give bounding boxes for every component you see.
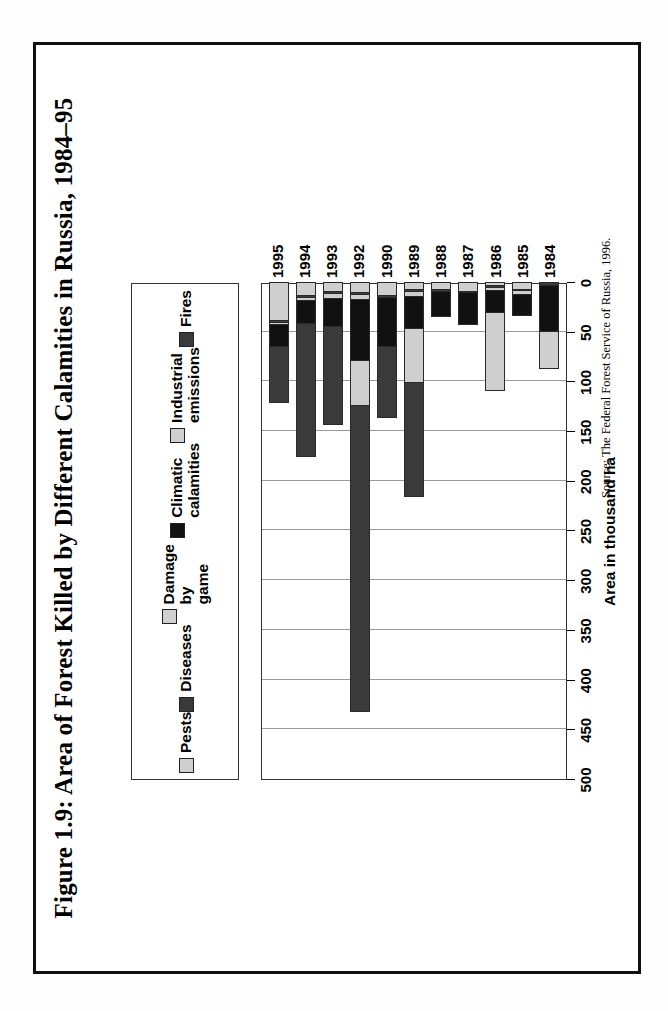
- source-note: Source: The Federal Forest Service of Ru…: [599, 238, 614, 498]
- bar-segment-pests[interactable]: [432, 283, 450, 289]
- bar-segment-fires[interactable]: [324, 326, 342, 424]
- axis-tick: [567, 680, 575, 681]
- stacked-bar[interactable]: [512, 282, 532, 316]
- legend-item-pests[interactable]: Pests: [177, 712, 194, 773]
- stacked-bar[interactable]: [431, 282, 451, 317]
- bar-segment-industrial-emissions[interactable]: [351, 360, 369, 405]
- legend-item-damage-by-game[interactable]: Damage by game: [160, 538, 211, 625]
- axis-tick-label: 150: [577, 420, 594, 445]
- axis-tick-label: 350: [577, 618, 594, 643]
- category-label-1994: 1994: [295, 208, 315, 278]
- bar-segment-fires[interactable]: [297, 323, 315, 456]
- stacked-bar[interactable]: [458, 282, 478, 325]
- legend-item-climatic-calamities[interactable]: Climatic calamities: [168, 443, 202, 538]
- bar-segment-pests[interactable]: [378, 283, 396, 295]
- category-label-1992: 1992: [349, 208, 369, 278]
- bar-segment-damage-by-game[interactable]: [270, 322, 288, 324]
- bar-segment-diseases[interactable]: [378, 295, 396, 297]
- bar-segment-climatic-calamities[interactable]: [351, 299, 369, 360]
- stacked-bar[interactable]: [323, 282, 343, 425]
- bar-segment-pests[interactable]: [486, 283, 504, 285]
- stacked-bar[interactable]: [485, 282, 505, 391]
- axis-tick: [567, 282, 575, 283]
- bar-segment-damage-by-game[interactable]: [405, 291, 423, 296]
- bar-segment-damage-by-game[interactable]: [324, 293, 342, 298]
- bar-segment-industrial-emissions[interactable]: [405, 328, 423, 382]
- category-label-1989: 1989: [404, 208, 424, 278]
- stacked-bar[interactable]: [539, 282, 559, 369]
- category-label-1995: 1995: [268, 208, 288, 278]
- bar-segment-pests[interactable]: [405, 283, 423, 289]
- bar-segment-pests[interactable]: [270, 283, 288, 320]
- category-label-1988: 1988: [431, 208, 451, 278]
- axis-tick: [567, 381, 575, 382]
- legend-item-diseases[interactable]: Diseases: [177, 624, 194, 711]
- category-axis-labels: 1995199419931992199019891988198719861985…: [261, 208, 567, 278]
- bar-segment-climatic-calamities[interactable]: [513, 294, 531, 315]
- bar-segment-climatic-calamities[interactable]: [270, 324, 288, 346]
- bar-row: [485, 284, 505, 779]
- bar-segment-fires[interactable]: [270, 346, 288, 403]
- axis-tick-label: 400: [577, 668, 594, 693]
- bar-segment-pests[interactable]: [513, 283, 531, 289]
- bar-segment-diseases[interactable]: [270, 320, 288, 322]
- bar-segment-climatic-calamities[interactable]: [378, 297, 396, 346]
- bar-segment-industrial-emissions[interactable]: [486, 312, 504, 390]
- bar-segment-pests[interactable]: [459, 283, 477, 291]
- bar-segment-diseases[interactable]: [351, 292, 369, 294]
- bar-row: [512, 284, 532, 779]
- stacked-bar[interactable]: [404, 282, 424, 497]
- bar-segment-diseases[interactable]: [513, 289, 531, 291]
- bar-segment-climatic-calamities[interactable]: [459, 293, 477, 324]
- axis-tick-label: 500: [577, 767, 594, 792]
- bar-segment-diseases[interactable]: [486, 285, 504, 287]
- bar-segment-climatic-calamities[interactable]: [486, 290, 504, 312]
- bar-segment-pests[interactable]: [297, 283, 315, 295]
- figure-frame: Figure 1.9: Area of Forest Killed by Dif…: [33, 42, 641, 974]
- legend-swatch-icon: [170, 523, 185, 538]
- bar-segment-diseases[interactable]: [540, 283, 558, 285]
- legend-label: Diseases: [177, 624, 194, 691]
- legend-item-industrial-emissions[interactable]: Industrial emissions: [168, 347, 202, 443]
- stacked-bar[interactable]: [296, 282, 316, 457]
- bar-segment-fires[interactable]: [405, 382, 423, 495]
- bar-segment-industrial-emissions[interactable]: [540, 331, 558, 369]
- rotated-figure-canvas: Figure 1.9: Area of Forest Killed by Dif…: [39, 48, 635, 968]
- bar-segment-damage-by-game[interactable]: [351, 294, 369, 299]
- bar-row: [296, 284, 316, 779]
- stacked-bar[interactable]: [350, 282, 370, 712]
- bar-segment-damage-by-game[interactable]: [513, 291, 531, 295]
- axis-tick-label: 450: [577, 718, 594, 743]
- bar-segment-climatic-calamities[interactable]: [297, 300, 315, 324]
- bar-segment-damage-by-game[interactable]: [486, 287, 504, 290]
- axis-tick-label: 200: [577, 469, 594, 494]
- stacked-bar[interactable]: [377, 282, 397, 418]
- bar-row: [458, 284, 478, 779]
- bar-segment-pests[interactable]: [351, 283, 369, 292]
- bar-segment-climatic-calamities[interactable]: [324, 298, 342, 326]
- bar-segment-climatic-calamities[interactable]: [405, 296, 423, 329]
- bar-segment-diseases[interactable]: [432, 289, 450, 291]
- legend-swatch-icon: [162, 609, 177, 624]
- legend-label: Damage by game: [160, 538, 211, 605]
- bar-segment-climatic-calamities[interactable]: [432, 291, 450, 316]
- bar-segment-fires[interactable]: [351, 405, 369, 712]
- bar-row: [323, 284, 343, 779]
- legend-item-fires[interactable]: Fires: [177, 290, 194, 347]
- bar-segment-damage-by-game[interactable]: [297, 297, 315, 300]
- axis-tick: [567, 580, 575, 581]
- bar-segment-diseases[interactable]: [324, 291, 342, 293]
- bar-segment-pests[interactable]: [324, 283, 342, 291]
- bar-segment-diseases[interactable]: [297, 295, 315, 297]
- bar-segment-diseases[interactable]: [459, 291, 477, 293]
- category-label-1986: 1986: [486, 208, 506, 278]
- bar-segment-climatic-calamities[interactable]: [540, 285, 558, 331]
- stacked-bar[interactable]: [269, 282, 289, 403]
- legend-swatch-icon: [179, 697, 194, 712]
- bar-segment-diseases[interactable]: [405, 289, 423, 291]
- category-label-1987: 1987: [458, 208, 478, 278]
- legend-label: Pests: [177, 712, 194, 753]
- plot-area: [261, 283, 567, 780]
- bar-segment-fires[interactable]: [378, 346, 396, 417]
- bar-series-container: [262, 284, 566, 779]
